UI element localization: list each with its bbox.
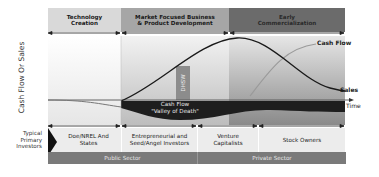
investor-entrepreneurial-seed-angel: Entrepreneurial and Seed/Angel Investors [122, 128, 197, 152]
valley-of-death-label: Cash Flow "Valley of Death" [140, 101, 210, 115]
sector-private: Private Sector [197, 152, 346, 164]
investors-title: Typical Primary Investors [2, 130, 42, 150]
time-axis-label: Time [346, 102, 361, 109]
investor-stock-owners: Stock Owners [259, 128, 345, 152]
investor-venture-capitalists: Venture Capitalists [198, 128, 258, 152]
cash-flow-curve-label: Cash Flow [317, 39, 351, 46]
investor-doe-nrel: Doe/NREL And States [56, 128, 121, 152]
sector-public: Public Sector [48, 152, 197, 164]
vertical-bar-label: DHSW [176, 66, 190, 100]
sales-curve-label: Sales [340, 86, 358, 93]
